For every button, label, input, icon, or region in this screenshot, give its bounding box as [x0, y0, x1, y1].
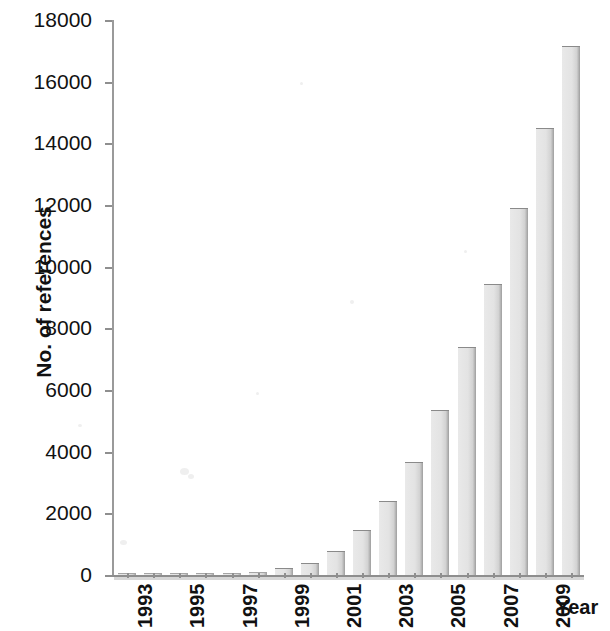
y-axis-tick-mark: [105, 20, 112, 22]
y-axis-tick-label: 16000: [6, 71, 92, 92]
x-axis-tick-label: 2003: [395, 584, 418, 629]
y-axis-tick-label: 2000: [6, 502, 92, 523]
y-axis-tick-mark: [105, 575, 112, 577]
bar: [353, 530, 371, 575]
bar: [458, 347, 476, 575]
x-axis-tick-mark: [336, 573, 338, 578]
y-axis-tick-mark: [105, 267, 112, 269]
plot-area: [112, 20, 582, 575]
y-axis-tick-mark: [105, 205, 112, 207]
x-axis-tick-mark: [519, 573, 521, 578]
x-axis-tick-labels: 199319951997199920012003200520072009: [112, 578, 582, 631]
x-axis-tick-label: 1999: [291, 584, 314, 629]
x-axis-tick-label: 1993: [134, 584, 157, 629]
x-axis-tick-mark: [310, 573, 312, 578]
x-axis-tick-label: 2007: [500, 584, 523, 629]
bar: [484, 284, 502, 575]
x-axis-tick-mark: [153, 573, 155, 578]
bar-chart: No. of references 0200040006000800010000…: [0, 0, 610, 631]
x-axis-title: Year: [556, 596, 598, 619]
y-axis-tick-mark: [105, 452, 112, 454]
bar-series: [112, 20, 582, 575]
x-axis-tick-mark: [414, 573, 416, 578]
bar: [431, 410, 449, 575]
x-axis-tick-mark: [179, 573, 181, 578]
y-axis-tick-mark: [105, 328, 112, 330]
x-axis-tick-mark: [493, 573, 495, 578]
y-axis-tick-label: 0: [6, 564, 92, 585]
bar: [327, 551, 345, 575]
y-axis-tick-mark: [105, 513, 112, 515]
x-axis-tick-mark: [388, 573, 390, 578]
x-axis-tick-mark: [467, 573, 469, 578]
x-axis-tick-mark: [440, 573, 442, 578]
y-axis-tick-mark: [105, 390, 112, 392]
bar: [510, 208, 528, 575]
y-axis-tick-labels: 0200040006000800010000120001400016000180…: [0, 0, 92, 631]
x-axis-tick-label: 2001: [343, 584, 366, 629]
x-axis-tick-label: 1997: [239, 584, 262, 629]
y-axis-tick-label: 6000: [6, 379, 92, 400]
y-axis-tick-label: 8000: [6, 317, 92, 338]
bar: [379, 501, 397, 575]
y-axis-tick-mark: [105, 143, 112, 145]
x-axis-tick-label: 2005: [447, 584, 470, 629]
y-axis-tick-label: 14000: [6, 132, 92, 153]
bar: [562, 46, 580, 575]
x-axis-tick-mark: [284, 573, 286, 578]
x-axis-tick-mark: [127, 573, 129, 578]
x-axis-tick-mark: [205, 573, 207, 578]
bar: [536, 128, 554, 575]
x-axis-tick-mark: [258, 573, 260, 578]
y-axis-tick-label: 12000: [6, 194, 92, 215]
bar: [405, 462, 423, 575]
x-axis-tick-mark: [232, 573, 234, 578]
x-axis-tick-mark: [571, 573, 573, 578]
y-axis-tick-label: 10000: [6, 256, 92, 277]
y-axis-tick-label: 18000: [6, 9, 92, 30]
y-axis-tick-label: 4000: [6, 441, 92, 462]
y-axis-tick-mark: [105, 82, 112, 84]
x-axis-tick-mark: [545, 573, 547, 578]
x-axis-tick-mark: [362, 573, 364, 578]
x-axis-tick-label: 1995: [186, 584, 209, 629]
